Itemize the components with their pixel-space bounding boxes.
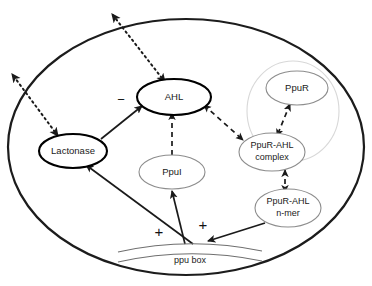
diagram-canvas: AHL Lactonase PpuI PpuR PpuR-AHL complex… — [0, 0, 372, 286]
diagram-svg: AHL Lactonase PpuI PpuR PpuR-AHL complex… — [0, 0, 372, 286]
node-ppur-ahl-nmer[interactable]: PpuR-AHL n-mer — [255, 189, 321, 227]
node-ppur-label: PpuR — [285, 82, 309, 93]
sign-plus-lactonase: + — [155, 223, 164, 240]
node-ppur-ahl-nmer-label-line1: PpuR-AHL — [266, 196, 309, 206]
sign-plus-ppui: + — [199, 216, 208, 233]
node-ppur-ahl-complex[interactable]: PpuR-AHL complex — [239, 133, 305, 171]
node-ahl-label: AHL — [165, 91, 183, 102]
node-ppui-label: PpuI — [162, 166, 182, 177]
node-ppur-ahl-complex-label-line2: complex — [255, 152, 289, 162]
node-ppui[interactable]: PpuI — [139, 155, 205, 189]
ppu-box-label: ppu box — [174, 255, 207, 265]
node-ppur[interactable]: PpuR — [266, 71, 328, 105]
node-lactonase-label: Lactonase — [51, 145, 95, 156]
node-lactonase[interactable]: Lactonase — [39, 134, 107, 168]
node-ppur-ahl-nmer-label-line2: n-mer — [276, 208, 300, 218]
sign-minus-ahl: − — [117, 92, 125, 107]
node-ahl[interactable]: AHL — [137, 79, 211, 115]
node-ppur-ahl-complex-label-line1: PpuR-AHL — [250, 140, 293, 150]
